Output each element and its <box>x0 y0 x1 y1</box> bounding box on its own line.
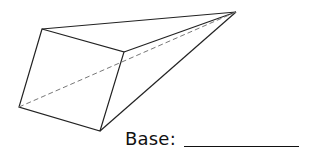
hidden-edge-apex-bottom-left <box>19 12 236 107</box>
base-face <box>19 29 124 131</box>
base-answer-blank[interactable] <box>184 146 299 147</box>
edge-apex-top-left <box>42 12 236 29</box>
base-label: Base: <box>125 128 176 149</box>
edge-apex-top-right <box>124 12 236 52</box>
edge-apex-bottom-right <box>100 12 236 131</box>
